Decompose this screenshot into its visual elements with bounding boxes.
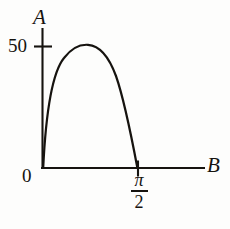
fraction-numerator-pi: π [126, 171, 152, 189]
origin-label: 0 [22, 166, 32, 185]
curve-path [43, 45, 137, 168]
y-tick-label-50: 50 [8, 36, 27, 55]
x-tick-label-pi-over-2: π 2 [126, 171, 152, 212]
fraction-denominator-2: 2 [126, 193, 152, 212]
plot-drawing [0, 0, 230, 229]
y-axis-label: A [33, 7, 46, 28]
x-axis-label: B [207, 155, 220, 176]
graph-figure: A B 50 0 π 2 [0, 0, 230, 229]
